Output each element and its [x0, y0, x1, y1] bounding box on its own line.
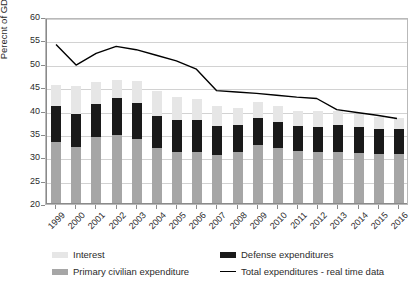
bar-segment-defense [273, 122, 283, 149]
bar-segment-primary-civilian [91, 137, 101, 204]
bar-group [132, 17, 142, 204]
bar-segment-defense [253, 118, 263, 145]
bar-segment-defense [192, 120, 202, 152]
bar-segment-defense [71, 114, 81, 147]
bar-segment-interest [333, 111, 343, 125]
bar-segment-primary-civilian [172, 152, 182, 204]
bar-segment-primary-civilian [132, 139, 142, 204]
bar-segment-defense [172, 120, 182, 152]
bar-segment-interest [354, 114, 364, 127]
bar-segment-interest [293, 111, 303, 126]
x-axis-line [46, 203, 407, 204]
bar-segment-defense [233, 125, 243, 152]
bar-segment-defense [132, 103, 142, 139]
bar-segment-primary-civilian [333, 152, 343, 204]
bar-group [273, 17, 283, 204]
bar-segment-primary-civilian [313, 152, 323, 204]
bar-group [354, 17, 364, 204]
legend-label-defense-expenditures: Defense expenditures [241, 249, 333, 260]
bar-segment-interest [51, 85, 61, 107]
bar-segment-primary-civilian [354, 153, 364, 204]
bar-group [293, 17, 303, 204]
bar-segment-primary-civilian [253, 145, 263, 204]
x-tick-mark-2014 [358, 205, 359, 209]
bar-segment-interest [374, 117, 384, 129]
bar-group [172, 17, 182, 204]
x-tick-mark-2009 [257, 205, 258, 209]
bar-segment-primary-civilian [51, 142, 61, 204]
x-tick-mark-2003 [136, 205, 137, 209]
bar-segment-interest [192, 99, 202, 120]
bar-segment-primary-civilian [152, 148, 162, 204]
bar-segment-interest [152, 91, 162, 115]
bar-group [91, 17, 101, 204]
bar-group [51, 17, 61, 204]
bar-segment-interest [132, 81, 142, 103]
x-tick-mark-2016 [398, 205, 399, 209]
x-tick-mark-2002 [116, 205, 117, 209]
bar-group [152, 17, 162, 204]
y-tick-label-60: 60 [14, 12, 40, 22]
y-axis-title: Perecnt of GDP [0, 0, 9, 86]
bar-segment-primary-civilian [71, 147, 81, 204]
x-tick-mark-2001 [95, 205, 96, 209]
chart-legend: Interest Defense expenditures Primary ci… [52, 246, 404, 280]
bar-segment-defense [394, 129, 404, 155]
bar-segment-interest [71, 86, 81, 114]
bar-segment-primary-civilian [374, 154, 384, 204]
y-tick-label-45: 45 [14, 82, 40, 92]
bar-group [374, 17, 384, 204]
bar-group [394, 17, 404, 204]
bar-segment-defense [212, 126, 222, 155]
x-tick-mark-2010 [277, 205, 278, 209]
bar-segment-defense [112, 98, 122, 135]
x-tick-mark-2007 [216, 205, 217, 209]
bar-segment-defense [374, 129, 384, 154]
legend-label-total-expenditures: Total expenditures - real time data [241, 266, 384, 277]
y-tick-label-30: 30 [14, 152, 40, 162]
x-tick-mark-1999 [55, 205, 56, 209]
legend-swatch-line [220, 269, 236, 275]
x-tick-mark-2000 [75, 205, 76, 209]
bar-segment-interest [253, 102, 263, 118]
bar-segment-interest [394, 118, 404, 129]
bar-segment-primary-civilian [293, 151, 303, 204]
legend-label-interest: Interest [73, 249, 105, 260]
bar-segment-defense [293, 126, 303, 151]
bar-segment-primary-civilian [212, 155, 222, 204]
y-axis-line [46, 19, 47, 204]
bar-group [112, 17, 122, 204]
bar-group [192, 17, 202, 204]
bar-group [71, 17, 81, 204]
legend-label-primary-civilian-expenditure: Primary civilian expenditure [73, 266, 189, 277]
bar-segment-defense [51, 106, 61, 142]
y-tick-label-20: 20 [14, 199, 40, 209]
bar-segment-primary-civilian [394, 154, 404, 204]
bar-segment-primary-civilian [273, 148, 283, 204]
bar-segment-interest [112, 80, 122, 98]
bar-segment-interest [313, 111, 323, 126]
bar-segment-primary-civilian [233, 152, 243, 204]
bar-segment-interest [273, 106, 283, 121]
bar-segment-interest [233, 108, 243, 126]
bar-series-layer [46, 19, 407, 204]
legend-item-interest: Interest [52, 246, 220, 263]
bar-group [212, 17, 222, 204]
bar-segment-primary-civilian [112, 135, 122, 204]
x-tick-mark-2008 [237, 205, 238, 209]
legend-swatch-interest [52, 252, 68, 258]
x-tick-mark-2013 [337, 205, 338, 209]
y-tick-label-25: 25 [14, 176, 40, 186]
legend-swatch-defense [220, 252, 236, 258]
bar-segment-defense [91, 104, 101, 137]
bar-group [333, 17, 343, 204]
x-tick-mark-2012 [317, 205, 318, 209]
bar-segment-interest [91, 82, 101, 104]
x-tick-mark-2015 [378, 205, 379, 209]
bar-group [313, 17, 323, 204]
legend-item-total-expenditures: Total expenditures - real time data [220, 263, 404, 280]
y-tick-mark-20 [41, 205, 45, 206]
bar-segment-defense [354, 127, 364, 152]
bar-group [233, 17, 243, 204]
legend-item-defense-expenditures: Defense expenditures [220, 246, 404, 263]
